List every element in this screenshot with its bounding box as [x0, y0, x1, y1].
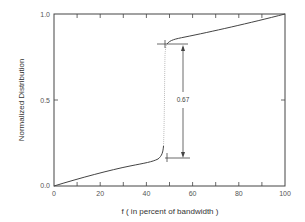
y-tick-label: 0.5 [40, 97, 50, 104]
x-axis-ticks [77, 182, 262, 186]
x-tick-label: 80 [235, 190, 243, 197]
jump-annotation: 0.67 [177, 96, 190, 103]
cross-marker-lower [165, 153, 190, 162]
x-tick-label: 60 [189, 190, 197, 197]
chart-canvas: 0 20 40 60 80 100 0.0 0.5 1.0 f ( in per… [0, 0, 305, 222]
x-tick-label: 100 [279, 190, 291, 197]
plot-frame [54, 14, 285, 186]
x-tick-label: 0 [52, 190, 56, 197]
curve-transition [164, 44, 168, 146]
top-axis-ticks [77, 14, 262, 18]
y-axis-label: Normalized Distribution [17, 59, 26, 142]
curve-lower [54, 146, 164, 186]
y-tick-label: 1.0 [40, 11, 50, 18]
curve-upper [167, 14, 285, 44]
x-axis-label: f ( in percent of bandwidth ) [122, 207, 219, 216]
y-tick-label: 0.0 [40, 182, 50, 189]
x-tick-label: 20 [96, 190, 104, 197]
x-tick-label: 40 [143, 190, 151, 197]
